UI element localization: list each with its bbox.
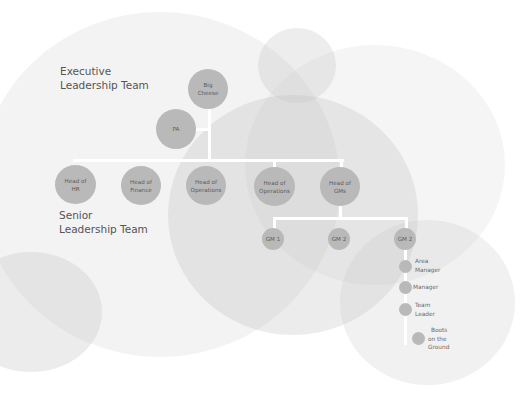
node-head-of-operations-1[interactable]: Head ofOperations [186,166,226,205]
manager-label: Manager [413,283,438,292]
executive-leadership-team-label: Executive Leadership Team [60,65,149,92]
connector-gm-horizontal [273,217,408,220]
boots-on-the-ground-label: Boots on the Ground [428,326,449,352]
node-gm-1[interactable]: GM 1 [262,228,284,250]
node-head-of-operations-2[interactable]: Head ofOperations [254,167,295,206]
node-boots-on-the-ground[interactable] [412,332,425,345]
node-head-of-finance[interactable]: Head ofFinance [121,166,161,205]
node-gm-2b[interactable]: GM 2 [394,228,416,250]
node-head-of-gms[interactable]: Head ofGMs [320,167,360,206]
connector-bigcheese-vertical [208,104,211,162]
connector-pa-horizontal [194,128,210,131]
node-team-leader[interactable] [399,303,412,316]
node-head-of-hr[interactable]: Head ofHR [55,165,96,204]
connector-senior-horizontal [73,159,344,162]
node-gm-2a[interactable]: GM 2 [328,228,350,250]
node-pa[interactable]: PA [156,109,196,149]
node-area-manager[interactable] [399,260,412,273]
senior-leadership-team-label: Senior Leadership Team [59,209,148,236]
org-chart: Executive Leadership Team Senior Leaders… [0,0,530,393]
node-big-cheese[interactable]: BigCheese [188,69,228,109]
node-manager[interactable] [399,281,412,294]
area-manager-label: Area Manager [415,257,440,274]
team-leader-label: Team Leader [415,301,435,318]
